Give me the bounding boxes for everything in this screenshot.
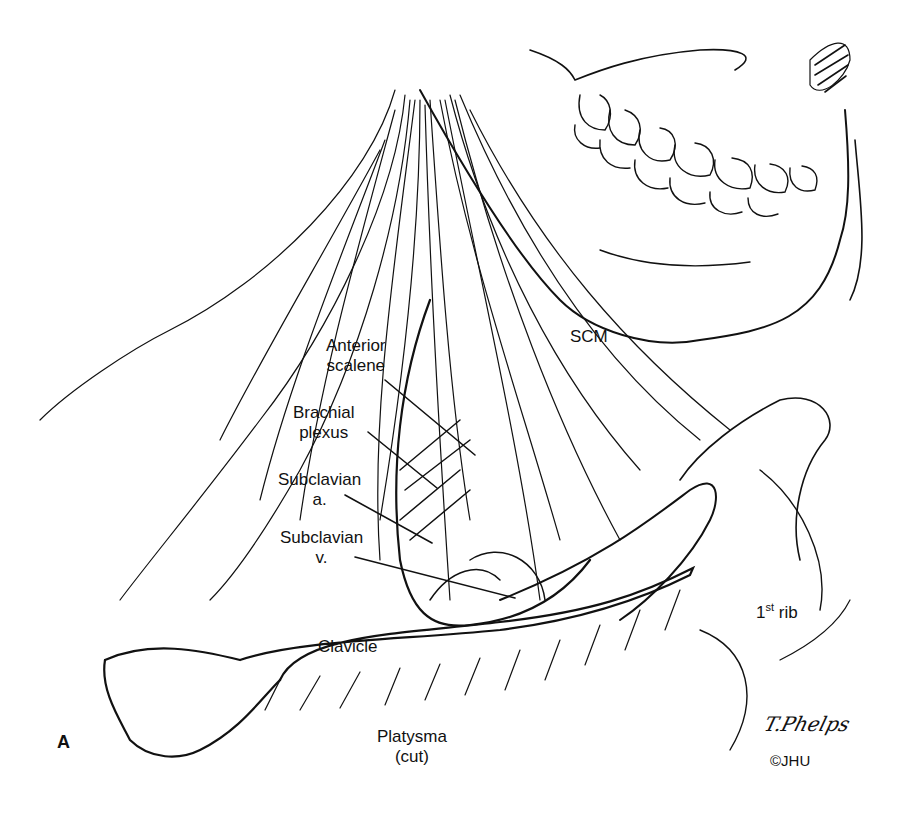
- scalene-window: [396, 300, 590, 626]
- label-platysma-line2: (cut): [377, 747, 447, 767]
- label-platysma-line1: Platysma: [377, 727, 447, 747]
- label-first-rib-sup: st: [765, 601, 774, 613]
- label-subclavian-artery-line2: a.: [278, 490, 361, 510]
- copyright-notice: ©JHU: [770, 752, 810, 769]
- label-brachial-plexus-line1: Brachial: [293, 403, 354, 423]
- label-platysma: Platysma (cut): [377, 727, 447, 767]
- label-first-rib-text: rib: [774, 603, 798, 622]
- vessels: [400, 420, 545, 600]
- teeth: [575, 95, 817, 266]
- label-scm: SCM: [570, 327, 608, 347]
- label-subclavian-vein-line1: Subclavian: [280, 528, 363, 548]
- panel-label: A: [57, 732, 70, 753]
- label-brachial-plexus-line2: plexus: [293, 423, 354, 443]
- label-brachial-plexus: Brachial plexus: [293, 403, 354, 443]
- label-anterior-scalene-line1: Anterior: [326, 336, 386, 356]
- label-subclavian-artery: Subclavian a.: [278, 470, 361, 510]
- label-subclavian-vein: Subclavian v.: [280, 528, 363, 568]
- label-subclavian-artery-line1: Subclavian: [278, 470, 361, 490]
- label-anterior-scalene-line2: scalene: [326, 356, 386, 376]
- leader-lines: [345, 380, 515, 598]
- anatomical-illustration: [0, 0, 913, 814]
- label-clavicle: Clavicle: [318, 637, 378, 657]
- label-anterior-scalene: Anterior scalene: [326, 336, 386, 376]
- artist-signature: T.Phelps: [762, 712, 853, 736]
- jaw-outline: [420, 43, 862, 343]
- label-first-rib: 1st rib: [756, 597, 798, 623]
- label-subclavian-vein-line2: v.: [280, 548, 363, 568]
